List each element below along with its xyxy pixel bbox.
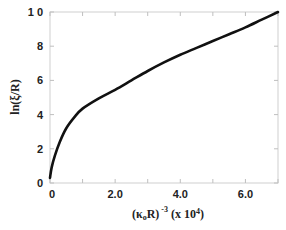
y-tick-label: 1 0 (28, 6, 43, 18)
x-tick-label: 4.0 (173, 188, 188, 200)
x-axis-label-sup: -3 (161, 205, 168, 214)
x-axis-label: (κoR)-3 (x 104) (132, 205, 204, 222)
y-tick-label: 6 (37, 74, 43, 86)
series-line (50, 12, 278, 178)
y-tick-label: 0 (37, 177, 43, 189)
plot-frame (50, 12, 278, 183)
x-tick-label: 2.0 (107, 188, 122, 200)
y-tick-label: 4 (37, 109, 44, 121)
x-tick-label: 0 (49, 188, 55, 200)
x-axis-label-open: (κ (132, 207, 143, 221)
y-axis-label: ln(ξ/R) (8, 79, 22, 114)
y-tick-label: 8 (37, 40, 43, 52)
x-axis-label-close: ) (200, 207, 204, 221)
x-axis-label-scale: (x 10 (168, 207, 196, 221)
chart: 02.04.06.0 024681 0 ln(ξ/R) (κoR)-3 (x 1… (0, 0, 286, 230)
x-axis-label-mid: R) (147, 207, 160, 221)
x-tick-label: 6.0 (238, 188, 253, 200)
y-tick-label: 2 (37, 143, 43, 155)
